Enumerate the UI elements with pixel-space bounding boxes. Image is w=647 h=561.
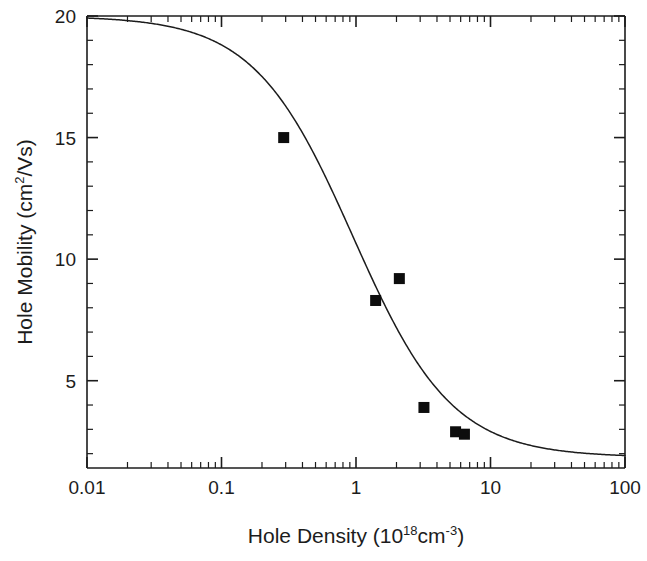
x-title-base3: ) xyxy=(457,524,464,547)
x-tick-label: 0.1 xyxy=(208,477,234,498)
x-title-sup2: -3 xyxy=(446,523,458,538)
x-tick-label: 1 xyxy=(351,477,362,498)
y-title-sup1: 2 xyxy=(12,177,27,184)
x-title-base1: Hole Density (10 xyxy=(248,524,403,547)
y-title-base2: /Vs) xyxy=(13,139,36,176)
x-tick-label: 0.01 xyxy=(69,477,106,498)
y-title-base1: Hole Mobility (cm xyxy=(13,184,36,345)
chart-svg: 0.010.1110100 5101520 Hole Density (1018… xyxy=(0,0,647,561)
x-tick-label: 10 xyxy=(480,477,501,498)
data-point-marker xyxy=(418,402,429,413)
y-tick-label: 15 xyxy=(55,128,76,149)
x-title-base2: cm xyxy=(418,524,446,547)
data-point-marker xyxy=(370,295,381,306)
svg-text:Hole Density (1018cm-3): Hole Density (1018cm-3) xyxy=(248,523,464,547)
y-axis-title: Hole Mobility (cm2/Vs) xyxy=(12,139,36,345)
figure-panel: 0.010.1110100 5101520 Hole Density (1018… xyxy=(0,0,647,561)
data-point-marker xyxy=(394,273,405,284)
svg-text:Hole Mobility (cm2/Vs): Hole Mobility (cm2/Vs) xyxy=(12,139,36,345)
x-title-sup1: 18 xyxy=(403,523,417,538)
data-point-marker xyxy=(459,429,470,440)
data-point-marker xyxy=(278,132,289,143)
y-tick-label: 10 xyxy=(55,249,76,270)
y-tick-label: 5 xyxy=(65,371,76,392)
x-tick-label: 100 xyxy=(609,477,641,498)
y-tick-label: 20 xyxy=(55,6,76,27)
x-axis-title: Hole Density (1018cm-3) xyxy=(248,523,464,547)
